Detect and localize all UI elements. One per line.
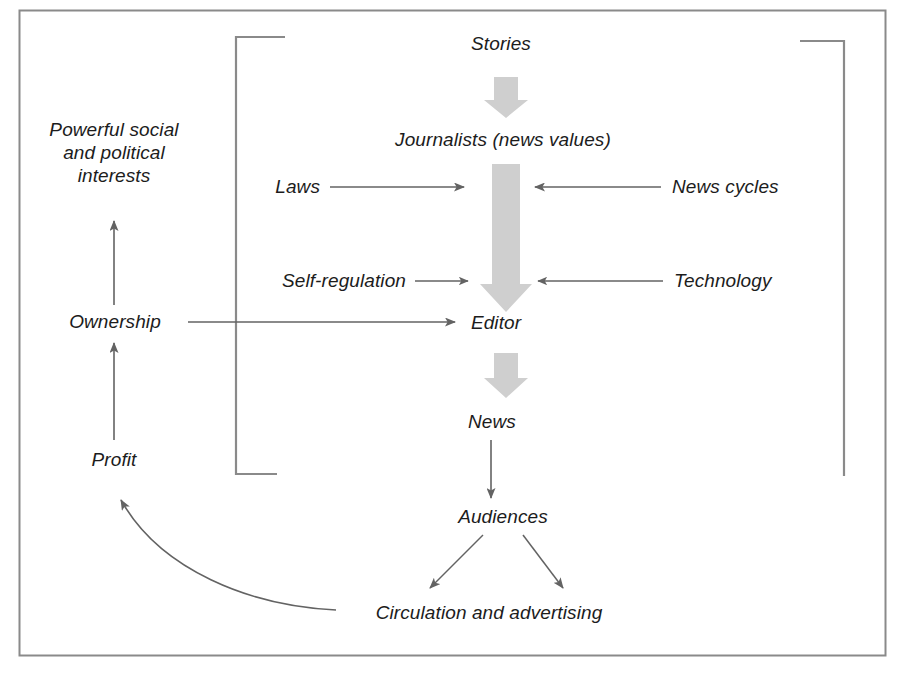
node-news-cycles: News cycles [672,175,779,198]
node-laws: Laws [275,175,320,198]
right-bracket [800,41,844,476]
node-journalists: Journalists (news values) [395,128,611,151]
node-powerful-interests: Powerful social and political interests [19,118,209,188]
node-self-regulation: Self-regulation [282,269,406,292]
node-editor: Editor [471,311,521,334]
arrow-audiences-to-circulation-left [430,535,483,588]
node-powerful-interests-line-2: and political [19,141,209,164]
arrow-audiences-to-circulation-right [523,535,563,588]
node-ownership: Ownership [69,310,161,333]
thick-arrow-editor-to-news [484,353,528,398]
node-powerful-interests-line-1: Powerful social [19,118,209,141]
left-bracket [236,37,285,474]
node-stories: Stories [471,32,531,55]
node-news: News [468,410,516,433]
diagram-canvas: Powerful social and political interests … [0,0,903,675]
node-powerful-interests-line-3: interests [19,164,209,187]
arrow-circulation-to-profit [121,500,336,610]
thick-arrow-journalists-to-editor [480,164,532,312]
node-audiences: Audiences [458,505,548,528]
node-technology: Technology [674,269,771,292]
thick-arrow-stories-to-journalists [484,77,528,118]
node-profit: Profit [92,448,137,471]
node-circulation-and-advertising: Circulation and advertising [376,601,603,624]
diagram-graphics [0,0,903,675]
